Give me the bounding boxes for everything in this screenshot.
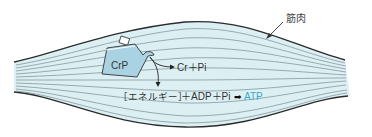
adp-pi-label: ＋ADP＋Pi [181, 91, 230, 102]
muscle-body [14, 22, 350, 127]
muscle-label: 筋肉 [286, 12, 306, 24]
crp-label: CrP [111, 60, 129, 71]
muscle-diagram: CrP Cr＋Pi ［エネルギー］ ＋ADP＋Pi ➡ ATP 筋肉 [0, 0, 372, 137]
reaction-arrow-icon: ➡ [234, 92, 242, 102]
cr-pi-label: Cr＋Pi [177, 62, 206, 73]
atp-label: ATP [244, 91, 263, 102]
energy-label: ［エネルギー］ [118, 91, 188, 102]
